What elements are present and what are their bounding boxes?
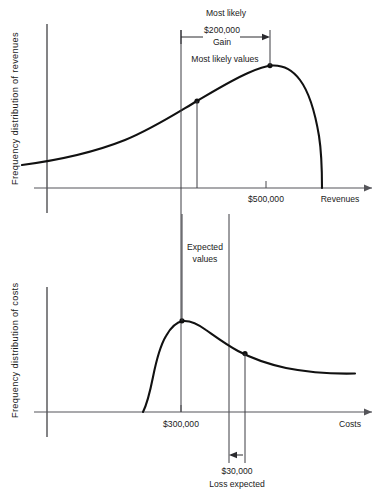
revenue-y-axis-label: Frequency distribution of revenues bbox=[10, 32, 20, 185]
expected-values-line2: values bbox=[193, 254, 218, 264]
most-likely-label: Most likely bbox=[206, 8, 247, 18]
loss-amount-label: $30,000 bbox=[221, 466, 252, 476]
revenue-curve bbox=[22, 65, 322, 188]
cost-curve bbox=[143, 321, 355, 412]
cost-y-axis-label: Frequency distribution of costs bbox=[10, 282, 20, 418]
gain-word-label: Gain bbox=[213, 37, 231, 47]
revenue-chart-group bbox=[22, 24, 372, 213]
cost-x-axis-label: Costs bbox=[339, 419, 361, 429]
loss-arrowhead-left bbox=[229, 452, 237, 458]
revenue-x-axis-arrowhead bbox=[364, 185, 372, 192]
revenue-tick-label: $500,000 bbox=[248, 194, 284, 204]
revenue-x-axis-label: Revenues bbox=[321, 194, 360, 204]
gain-amount-label: $200,000 bbox=[204, 25, 240, 35]
chart-vector-layer: Frequency distribution of revenues Most … bbox=[0, 0, 385, 493]
cost-x-axis-arrowhead bbox=[364, 409, 372, 416]
expected-values-line1: Expected bbox=[187, 242, 223, 252]
most-likely-values-label: Most likely values bbox=[191, 54, 258, 64]
figure-canvas: Frequency distribution of revenues Most … bbox=[0, 0, 385, 493]
loss-caption-label: Loss expected bbox=[209, 479, 265, 489]
gain-arrowhead-right bbox=[262, 34, 270, 40]
cost-tick-label: $300,000 bbox=[163, 419, 199, 429]
